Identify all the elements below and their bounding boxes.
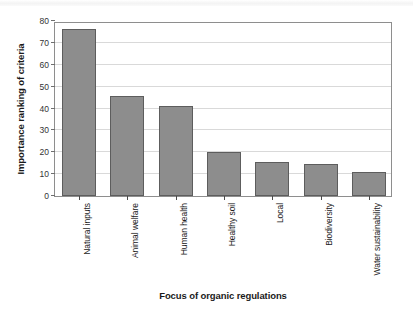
gridline	[55, 129, 391, 130]
y-tick-label: 20	[40, 148, 49, 157]
y-tick-mark	[51, 20, 55, 21]
y-tick-mark	[51, 151, 55, 152]
y-tick-label: 0	[44, 192, 49, 201]
y-tick-label: 60	[40, 60, 49, 69]
bar	[159, 106, 193, 196]
plot-area: 01020304050607080	[54, 22, 392, 197]
y-tick-mark	[51, 86, 55, 87]
y-tick-mark	[51, 108, 55, 109]
y-tick-label: 30	[40, 126, 49, 135]
y-tick-mark	[51, 64, 55, 65]
gridline	[55, 108, 391, 109]
y-tick-mark	[51, 195, 55, 196]
y-tick-mark	[51, 173, 55, 174]
y-tick-mark	[51, 42, 55, 43]
bar	[352, 172, 386, 196]
y-tick-label: 50	[40, 82, 49, 91]
x-tick-mark	[127, 196, 128, 200]
bar-chart-figure: Importance ranking of criteria 010203040…	[0, 0, 413, 312]
bar	[110, 96, 144, 196]
gridline	[55, 86, 391, 87]
x-axis-title: Focus of organic regulations	[54, 290, 392, 301]
bar	[62, 29, 96, 196]
x-tick-mark	[79, 196, 80, 200]
x-tick-mark	[272, 196, 273, 200]
y-tick-label: 80	[40, 17, 49, 26]
x-tick-label: Local	[275, 203, 285, 223]
x-tick-label: Biodiversity	[324, 203, 334, 246]
x-tick-mark	[176, 196, 177, 200]
gridline	[55, 42, 391, 43]
x-tick-label: Animal welfare	[130, 203, 140, 258]
y-tick-mark	[51, 129, 55, 130]
y-tick-label: 10	[40, 170, 49, 179]
x-tick-label: Water sustainability	[372, 203, 382, 275]
gridline	[55, 64, 391, 65]
bar	[207, 152, 241, 196]
x-tick-label: Natural inputs	[82, 203, 92, 255]
bar	[255, 162, 289, 196]
bar	[304, 164, 338, 196]
x-tick-label: Human health	[179, 203, 189, 255]
y-tick-label: 70	[40, 38, 49, 47]
x-tick-label: Healthy soil	[227, 203, 237, 246]
x-tick-mark	[224, 196, 225, 200]
y-axis-title: Importance ranking of criteria	[14, 18, 28, 200]
x-tick-mark	[321, 196, 322, 200]
y-tick-label: 40	[40, 104, 49, 113]
x-tick-mark	[369, 196, 370, 200]
